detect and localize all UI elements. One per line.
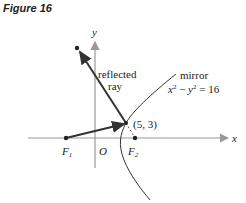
focus2-label: F2 <box>128 145 138 161</box>
point-label: (5, 3) <box>133 118 157 130</box>
reflected-ray-label-2: ray <box>108 80 122 92</box>
mirror-equation: x2 − y2 = 16 <box>168 81 219 95</box>
y-axis-label: y <box>92 26 97 38</box>
reflection-point <box>124 121 128 125</box>
focus2-point <box>133 136 137 140</box>
x-axis-label: x <box>232 132 237 144</box>
focus1-point <box>64 136 68 140</box>
origin-label: O <box>99 145 107 157</box>
hyperbola-diagram <box>0 0 246 203</box>
ray-end-point <box>75 46 79 50</box>
reflected-ray-label-1: reflected <box>98 68 136 80</box>
focus1-label: F1 <box>62 145 72 161</box>
mirror-label: mirror <box>180 69 208 81</box>
